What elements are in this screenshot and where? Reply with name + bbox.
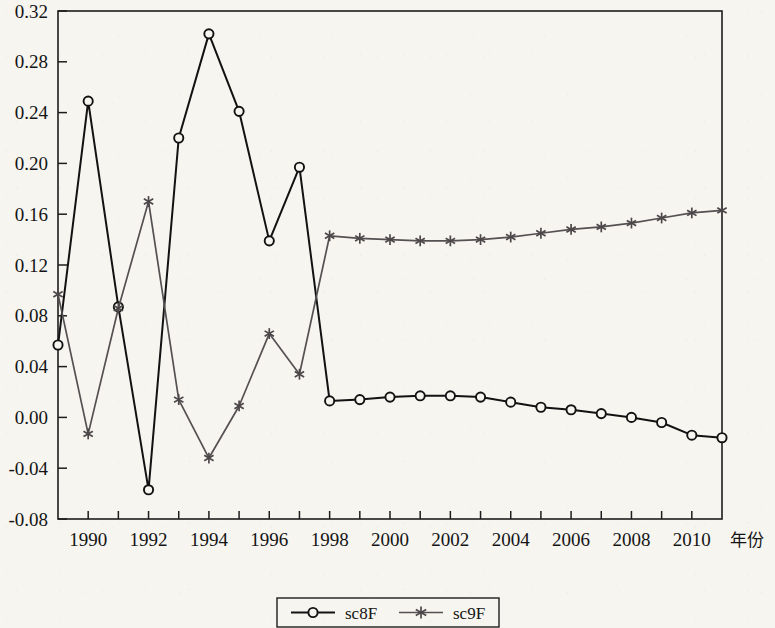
data-point-marker <box>355 395 364 404</box>
x-tick-label: 2008 <box>612 529 650 550</box>
data-point-marker <box>597 409 606 418</box>
x-tick-label: 1996 <box>250 529 288 550</box>
data-point-marker <box>295 163 304 172</box>
x-tick-label: 2002 <box>431 529 469 550</box>
data-point-marker <box>476 392 485 401</box>
data-point-marker <box>627 413 636 422</box>
y-tick-label: 0.04 <box>15 356 49 377</box>
data-point-marker <box>234 107 243 116</box>
x-axis-ticks <box>88 511 692 519</box>
data-point-marker <box>204 453 213 464</box>
x-axis-title: 年份 <box>730 530 764 550</box>
x-tick-label: 1998 <box>311 529 349 550</box>
line-chart: 0.320.280.240.200.160.120.080.040.00-0.0… <box>0 0 775 628</box>
data-point-marker <box>144 196 153 207</box>
data-series-group <box>53 29 726 494</box>
x-axis-tick-labels: 1990199219941996199820002002200420062008… <box>69 529 711 550</box>
data-point-marker <box>506 398 515 407</box>
data-point-marker <box>84 429 93 440</box>
data-point-marker <box>53 289 62 300</box>
data-point-marker <box>687 431 696 440</box>
y-axis-tick-labels: 0.320.280.240.200.160.120.080.040.00-0.0… <box>8 1 48 530</box>
y-axis-ticks <box>58 11 67 519</box>
x-tick-label: 1992 <box>130 529 168 550</box>
chart-legend: sc8Fsc9F <box>277 598 499 627</box>
data-point-marker <box>566 405 575 414</box>
chart-container: 0.320.280.240.200.160.120.080.040.00-0.0… <box>0 0 775 628</box>
data-point-marker <box>536 403 545 412</box>
x-tick-label: 2000 <box>371 529 409 550</box>
x-tick-label: 2004 <box>492 529 531 550</box>
data-point-marker <box>717 433 726 442</box>
data-point-marker <box>446 391 455 400</box>
data-point-marker <box>144 485 153 494</box>
x-tick-label: 2010 <box>673 529 711 550</box>
series-sc8F <box>53 29 726 494</box>
x-tick-label: 1990 <box>69 529 107 550</box>
y-tick-label: 0.24 <box>15 102 49 123</box>
y-tick-label: 0.00 <box>15 407 48 428</box>
y-tick-label: 0.20 <box>15 153 48 174</box>
data-point-marker <box>416 391 425 400</box>
y-tick-label: 0.08 <box>15 305 48 326</box>
y-tick-label: -0.04 <box>8 458 48 479</box>
data-point-marker <box>84 97 93 106</box>
y-tick-label: -0.08 <box>8 509 48 530</box>
data-point-marker <box>204 29 213 38</box>
x-tick-label: 1994 <box>190 529 229 550</box>
y-tick-label: 0.32 <box>15 1 48 22</box>
data-point-marker <box>174 394 183 405</box>
data-point-marker <box>265 236 274 245</box>
x-tick-label: 2006 <box>552 529 590 550</box>
data-point-marker <box>657 418 666 427</box>
legend-label-sc8F: sc8F <box>345 604 377 623</box>
data-point-marker <box>385 392 394 401</box>
y-tick-label: 0.12 <box>15 255 48 276</box>
data-point-marker <box>234 401 243 412</box>
y-tick-label: 0.16 <box>15 204 48 225</box>
legend-marker-circle-icon <box>308 608 317 617</box>
data-point-marker <box>174 133 183 142</box>
data-point-marker <box>325 396 334 405</box>
y-tick-label: 0.28 <box>15 51 48 72</box>
legend-label-sc9F: sc9F <box>453 604 485 623</box>
data-point-marker <box>53 340 62 349</box>
